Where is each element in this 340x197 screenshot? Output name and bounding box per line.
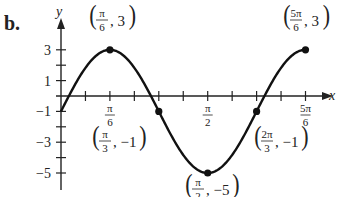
svg-text:(: ( [92,121,99,152]
svg-text:6: 6 [99,21,105,33]
y-tick-label: −3 [36,135,51,150]
svg-text:6: 6 [107,116,113,128]
point-annotation: (π3, −1) [92,121,146,154]
sine-curve [61,50,306,173]
svg-text:, 3: , 3 [110,13,125,29]
y-axis-arrow-icon [57,18,65,29]
y-tick-label: 3 [44,43,51,58]
data-point [106,46,113,53]
svg-text:3: 3 [102,142,108,154]
point-annotation: (2π3, −1) [254,121,308,154]
svg-text:6: 6 [293,21,299,33]
x-tick-labels: π6π25π6 [105,102,312,128]
point-annotation: (5π6, 3) [283,0,330,33]
x-tick-label: π2 [203,102,213,128]
svg-text:π: π [205,102,211,114]
svg-text:2: 2 [195,190,201,197]
svg-text:5π: 5π [300,102,312,114]
y-axis-label: y [54,4,63,19]
y-tick-labels: 31−1−3−5 [36,43,51,181]
y-tick-label: 1 [44,74,51,89]
svg-text:): ) [129,0,136,31]
x-axis-label: x [328,88,336,103]
y-tick-label: −1 [36,104,51,119]
svg-text:3: 3 [264,142,270,154]
svg-text:): ) [139,121,146,152]
svg-text:): ) [323,0,330,31]
svg-text:(: ( [185,169,192,197]
svg-text:): ) [232,169,239,197]
data-point [155,108,162,115]
svg-text:π: π [107,102,113,114]
svg-text:, −1: , −1 [275,134,298,150]
svg-text:, −1: , −1 [113,134,136,150]
point-annotation: (π6, 3) [89,0,136,33]
y-tick-label: −5 [36,166,51,181]
svg-text:, 3: , 3 [304,13,319,29]
x-tick-label: π6 [105,102,115,128]
svg-text:2: 2 [205,116,211,128]
svg-text:5π: 5π [290,7,302,19]
svg-text:π: π [99,7,105,19]
svg-text:(: ( [89,0,96,31]
part-label: b. [4,12,20,34]
svg-text:π: π [195,176,201,188]
point-annotations: (π6, 3)(π3, −1)(π2, −5)(2π3, −1)(5π6, 3) [89,0,330,197]
svg-text:, −5: , −5 [206,182,229,197]
svg-text:2π: 2π [261,128,273,140]
svg-text:): ) [301,121,308,152]
sine-graph: b. y x 31−1−3−5 π6π25π6 (π6, 3)(π3, −1)(… [0,0,340,197]
data-point [302,46,309,53]
data-point [253,108,260,115]
svg-text:π: π [102,128,108,140]
data-point [204,169,211,176]
